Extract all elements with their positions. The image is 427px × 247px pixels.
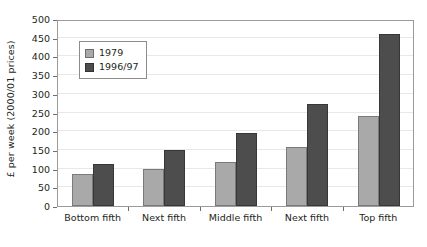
y-tick-label: 500: [20, 15, 50, 25]
y-tick-label: 400: [20, 52, 50, 62]
legend-item: 1996/97: [85, 60, 138, 74]
y-tick-label: 50: [20, 183, 50, 193]
bar: [379, 34, 400, 206]
x-tick-mark: [128, 207, 129, 211]
legend-label: 1996/97: [99, 62, 138, 72]
y-tick-label: 300: [20, 90, 50, 100]
legend: 19791996/97: [79, 41, 147, 79]
bar: [358, 116, 379, 206]
bar: [236, 133, 257, 206]
legend-label: 1979: [99, 48, 123, 58]
bar-chart: £ per week (2000/01 prices) 050100150200…: [0, 0, 427, 247]
y-tick-label: 100: [20, 165, 50, 175]
bar: [93, 164, 114, 206]
bar: [307, 104, 328, 206]
legend-swatch: [85, 63, 94, 72]
x-tick-mark: [271, 207, 272, 211]
y-tick-label: 200: [20, 127, 50, 137]
legend-swatch: [85, 49, 94, 58]
bar-group: [272, 21, 343, 206]
bar: [164, 150, 185, 206]
y-axis-title: £ per week (2000/01 prices): [2, 4, 20, 214]
legend-item: 1979: [85, 46, 138, 60]
bar-group: [201, 21, 272, 206]
y-tick-label: 250: [20, 109, 50, 119]
y-tick-label: 350: [20, 71, 50, 81]
y-tick-label: 150: [20, 146, 50, 156]
bar: [286, 147, 307, 206]
bar-group: [344, 21, 415, 206]
y-tick-mark: [53, 207, 57, 208]
y-tick-label: 0: [20, 202, 50, 212]
bar: [72, 174, 93, 206]
x-tick-label: Top fifth: [333, 213, 423, 223]
bar: [215, 162, 236, 207]
y-tick-label: 450: [20, 34, 50, 44]
x-tick-mark: [200, 207, 201, 211]
x-tick-mark: [343, 207, 344, 211]
bar: [143, 169, 164, 206]
